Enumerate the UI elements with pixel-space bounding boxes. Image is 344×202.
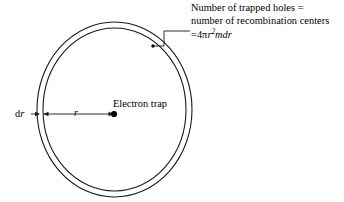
- electron-trap-dot: [111, 111, 117, 117]
- figure-root: Number of trapped holes = number of reco…: [0, 0, 344, 202]
- annotation-formula: =4πr2mdr: [191, 28, 343, 41]
- annotation-leader-line: [153, 31, 190, 46]
- annotation-text-block: Number of trapped holes = number of reco…: [191, 1, 343, 41]
- dr-label-r: r: [20, 108, 24, 119]
- formula-suffix: mdr: [215, 29, 232, 40]
- annotation-line-1: Number of trapped holes =: [191, 1, 343, 14]
- radius-label: r: [74, 107, 78, 118]
- electron-trap-label: Electron trap: [113, 98, 167, 109]
- radius-arrow-left: [44, 112, 49, 116]
- formula-prefix: =4: [191, 29, 202, 40]
- inner-circle-shape: [43, 28, 186, 191]
- dr-label: dr: [15, 108, 24, 119]
- outer-circle-shape: [37, 22, 192, 197]
- annotation-line-2: number of recombination centers: [191, 14, 343, 27]
